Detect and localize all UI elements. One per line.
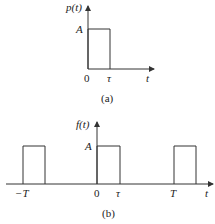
panel-a-pulse bbox=[88, 29, 110, 69]
panel-a-origin-label: 0 bbox=[84, 72, 90, 84]
panel-a-single-pulse: p(t) A 0 τ t (a) bbox=[65, 1, 154, 105]
panel-a-amplitude-label: A bbox=[75, 23, 83, 35]
panel-b-pulse-left bbox=[23, 146, 45, 184]
pulse-diagrams: p(t) A 0 τ t (a) f(t) A −T 0 τ T t (b) bbox=[0, 0, 215, 224]
panel-b-neg-period-label: −T bbox=[15, 187, 29, 199]
panel-b-tau-label: τ bbox=[116, 187, 121, 199]
panel-b-pulse-right bbox=[174, 146, 196, 184]
panel-b-amplitude-label: A bbox=[84, 140, 92, 152]
panel-a-tau-label: τ bbox=[107, 72, 112, 84]
panel-b-period-label: T bbox=[170, 187, 177, 199]
panel-a-x-label: t bbox=[146, 72, 150, 84]
panel-b-y-label: f(t) bbox=[76, 118, 90, 131]
panel-a-y-label: p(t) bbox=[65, 1, 82, 14]
panel-a-caption: (a) bbox=[101, 92, 114, 105]
panel-b-pulse-center bbox=[97, 146, 120, 184]
panel-b-x-label: t bbox=[205, 187, 209, 199]
panel-b-origin-label: 0 bbox=[94, 187, 100, 199]
panel-b-pulse-train: f(t) A −T 0 τ T t (b) bbox=[6, 118, 213, 220]
panel-b-caption: (b) bbox=[102, 207, 115, 220]
